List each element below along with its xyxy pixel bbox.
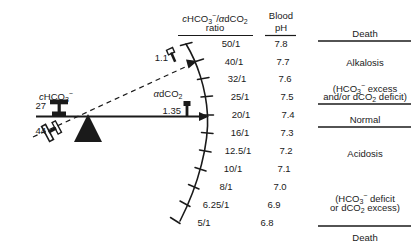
ratio-value-5: 16/1 [231,127,250,138]
ratio-value-6: 12.5/1 [225,145,251,156]
ph-column-header-line2: pH [275,22,287,33]
zone-label-normal: Normal [350,114,381,126]
ph-value-5: 7.3 [280,127,293,138]
ph-value-2: 7.6 [278,73,291,84]
ratio-column-header-line2: ratio [206,22,224,33]
zone-label-death-top: Death [352,28,377,40]
ratio-value-9: 6.25/1 [203,199,229,210]
ph-value-3: 7.5 [280,91,293,102]
ph-value-7: 7.1 [277,163,290,174]
zone-label-death-bottom: Death [352,232,377,244]
ph-value-9: 6.9 [267,199,280,210]
ph-value-8: 7.0 [273,181,286,192]
ratio-value-7: 10/1 [224,163,243,174]
fulcrum-triangle [74,114,102,142]
ph-column-header-line1: Blood [269,10,293,21]
beam-right-weight-alt-value: 1.1 [155,52,168,63]
beam-left-weight-value: 27 [35,100,46,111]
ratio-value-10: 5/1 [197,217,210,228]
beam-right-label: αdCO2 [154,88,183,102]
weight-marker-dco2-dashed [166,48,178,63]
zone-label-acidosis-detail-line2: or dCO2 excess) [330,202,400,217]
ph-value-0: 7.8 [274,38,287,49]
ph-value-1: 7.7 [276,56,289,67]
ph-value-10: 6.8 [260,217,273,228]
zone-label-alkalosis-detail-line2: and/or dCO2 deficit) [323,91,407,106]
beam-left-weight-alt-value: 44 [35,125,46,136]
weight-marker-dco2-solid [184,101,191,117]
ratio-value-4: 20/1 [232,109,251,120]
ratio-value-8: 8/1 [219,181,232,192]
ph-value-6: 7.2 [279,145,292,156]
zone-label-alkalosis: Alkalosis [346,57,384,69]
ratio-value-0: 50/1 [222,38,241,49]
ratio-value-3: 25/1 [231,91,250,102]
ratio-value-1: 40/1 [225,56,244,67]
figure-canvas: cHCO3−/αdCO2 ratio Blood pH cHCO3− 27 44… [0,0,419,250]
beam-right-weight-value: 1.35 [163,105,182,116]
ratio-value-2: 32/1 [228,73,247,84]
zone-label-acidosis: Acidosis [347,148,382,160]
ph-value-4: 7.4 [281,109,294,120]
